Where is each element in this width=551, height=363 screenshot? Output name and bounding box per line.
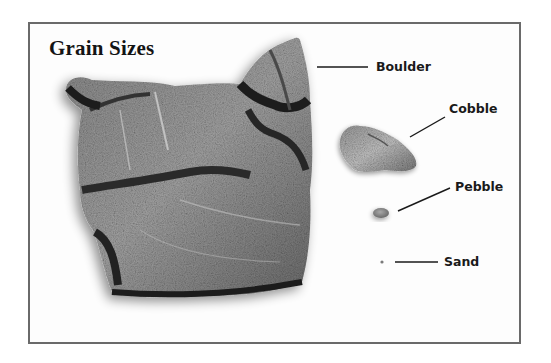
label-pebble: Pebble (455, 179, 503, 194)
pebble-leader-line (398, 188, 450, 211)
label-sand: Sand (444, 254, 479, 269)
figure-title: Grain Sizes (49, 36, 154, 61)
pebble-specimen (373, 208, 389, 218)
label-cobble: Cobble (449, 101, 497, 116)
cobble-specimen (340, 126, 417, 172)
cobble-leader-line (410, 117, 445, 137)
label-boulder: Boulder (376, 59, 431, 74)
sand-specimen (380, 260, 383, 263)
boulder-specimen (66, 38, 312, 297)
